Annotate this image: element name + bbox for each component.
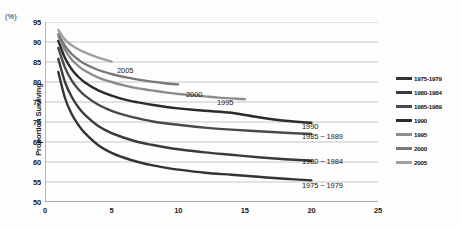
y-axis-tick-70: 70: [33, 118, 41, 127]
series-callout-2000: 2000: [186, 90, 202, 99]
legend-swatch-icon: [396, 77, 412, 80]
series-line-1985-1989: [58, 48, 311, 134]
y-axis-tick-95: 95: [33, 18, 41, 27]
legend-swatch-icon: [396, 161, 412, 164]
legend-item-2000[interactable]: 2000: [396, 142, 460, 155]
y-axis-tick-75: 75: [33, 98, 41, 107]
legend-item-1980-1984[interactable]: 1980-1984: [396, 86, 460, 99]
y-axis-tick-60: 60: [33, 158, 41, 167]
legend-swatch-icon: [396, 119, 412, 122]
y-axis-tick-85: 85: [33, 58, 41, 67]
legend-item-1975-1979[interactable]: 1975-1979: [396, 72, 460, 85]
x-axis-tick-5: 5: [110, 206, 114, 215]
y-axis-tick-50: 50: [33, 198, 41, 207]
series-line-2000: [58, 34, 178, 84]
x-axis-tick-labels: 0510152025: [45, 206, 378, 218]
legend-swatch-icon: [396, 105, 412, 108]
legend-label: 2000: [414, 145, 427, 152]
legend-swatch-icon: [396, 147, 412, 150]
chart-legend: 1975-19791980-19841985-19891990199520002…: [396, 72, 460, 170]
y-axis-tick-labels: 95908580757065605550: [22, 22, 41, 202]
series-callout-1995: 1995: [217, 98, 233, 107]
legend-swatch-icon: [396, 91, 412, 94]
y-axis-tick-65: 65: [33, 138, 41, 147]
legend-label: 1980-1984: [414, 89, 442, 96]
x-axis-tick-10: 10: [174, 206, 182, 215]
survival-curve-chart: (%) Proportion Surviving 959085807570656…: [0, 0, 462, 230]
y-axis-tick-90: 90: [33, 38, 41, 47]
legend-item-2005[interactable]: 2005: [396, 156, 460, 169]
y-axis-tick-80: 80: [33, 78, 41, 87]
x-axis-tick-25: 25: [374, 206, 382, 215]
series-callout-1985-1989: 1985 ~ 1989: [302, 132, 343, 141]
plot-area: [45, 22, 378, 202]
series-callout-1980-1984: 1980 ~ 1984: [302, 157, 343, 166]
y-axis-unit-label: (%): [5, 12, 17, 21]
series-callout-1990: 1990: [302, 122, 318, 131]
series-callout-1975-1979: 1975 ~ 1979: [302, 181, 343, 190]
legend-label: 1995: [414, 131, 427, 138]
x-axis-tick-0: 0: [43, 206, 47, 215]
x-axis-tick-20: 20: [307, 206, 315, 215]
series-line-2005: [58, 30, 111, 62]
legend-label: 1985-1989: [414, 103, 442, 110]
x-axis-tick-15: 15: [241, 206, 249, 215]
legend-item-1995[interactable]: 1995: [396, 128, 460, 141]
legend-label: 1990: [414, 117, 427, 124]
series-callout-2005: 2005: [117, 66, 133, 75]
series-line-1995: [58, 36, 244, 99]
plot-svg: [45, 22, 378, 202]
legend-item-1990[interactable]: 1990: [396, 114, 460, 127]
y-axis-tick-55: 55: [33, 178, 41, 187]
y-axis-title-wrapper: Proportion Surviving: [8, 55, 22, 165]
legend-label: 1975-1979: [414, 75, 442, 82]
legend-label: 2005: [414, 159, 427, 166]
legend-swatch-icon: [396, 133, 412, 136]
legend-item-1985-1989[interactable]: 1985-1989: [396, 100, 460, 113]
